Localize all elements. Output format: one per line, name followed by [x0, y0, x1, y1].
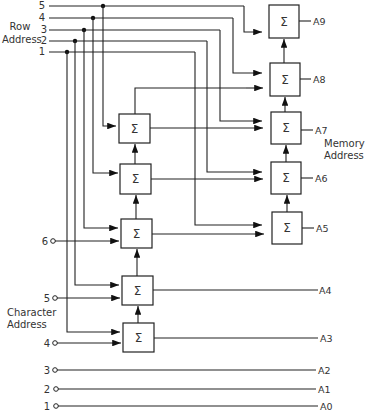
char-input-6: 6 [42, 236, 48, 247]
output-a5: A5 [316, 223, 329, 234]
svg-text:Σ: Σ [135, 331, 143, 345]
memory-address-title-2: Address [324, 150, 364, 161]
char-address-title-2: Address [7, 319, 47, 330]
row-input-1: 1 [39, 46, 45, 57]
passthrough-inputs [53, 368, 318, 409]
output-a4: A4 [319, 285, 332, 296]
row-address-labels: 5 4 3 2 1 Row Address [2, 0, 47, 57]
output-a9: A9 [313, 16, 326, 27]
char-address-title-1: Character [7, 307, 57, 318]
row-input-5: 5 [39, 0, 45, 11]
output-a8: A8 [313, 74, 326, 85]
svg-text:Σ: Σ [134, 284, 142, 298]
svg-text:Σ: Σ [282, 121, 290, 135]
svg-text:Σ: Σ [283, 221, 291, 235]
passthrough-labels: 3 2 1 [44, 365, 50, 412]
svg-text:Σ: Σ [282, 171, 290, 185]
row-address-title-2: Address [2, 34, 42, 45]
char-input-4: 4 [44, 338, 50, 349]
row-junctions [65, 4, 120, 332]
memory-address-title-1: Memory [324, 138, 365, 149]
svg-text:Σ: Σ [131, 122, 139, 136]
right-adders: Σ Σ Σ Σ Σ [269, 5, 302, 244]
output-a6: A6 [315, 173, 328, 184]
input-3: 3 [44, 365, 50, 376]
svg-text:Σ: Σ [132, 172, 140, 186]
character-address-inputs [51, 239, 121, 346]
output-a1: A1 [318, 384, 331, 395]
input-1: 1 [44, 401, 50, 412]
left-adders: Σ Σ Σ Σ Σ [119, 114, 154, 352]
row-address-bus [49, 6, 244, 52]
row-address-title-1: Row [10, 21, 31, 32]
svg-text:Σ: Σ [281, 73, 289, 87]
left-outputs [153, 290, 318, 338]
output-a3: A3 [320, 333, 333, 344]
character-address-labels: 6 5 4 Character Address [7, 236, 57, 349]
output-a7: A7 [315, 125, 328, 136]
char-input-5: 5 [44, 293, 50, 304]
row-input-4: 4 [39, 12, 45, 23]
svg-text:Σ: Σ [133, 227, 141, 241]
input-2: 2 [44, 384, 50, 395]
memory-address-labels: A9 A8 A7 A6 A5 A4 A3 A2 A1 A0 Memory Add… [313, 16, 365, 412]
output-a2: A2 [318, 365, 331, 376]
address-adder-diagram: Σ Σ Σ Σ Σ Σ Σ Σ Σ Σ [0, 0, 366, 419]
svg-text:Σ: Σ [280, 15, 288, 29]
output-a0: A0 [320, 401, 333, 412]
row-to-right-adders [195, 6, 262, 225]
